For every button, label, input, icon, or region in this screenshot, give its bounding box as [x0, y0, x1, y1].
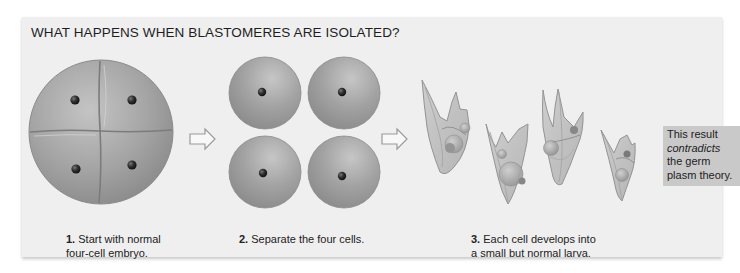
note-line1: This result: [667, 128, 718, 140]
conclusion-note: This result contradicts the germ plasm t…: [663, 126, 740, 186]
arrow-right-icon: [190, 129, 215, 149]
larva: [543, 89, 584, 185]
note-line4: plasm theory.: [667, 169, 732, 181]
step-3-caption: 3. Each cell develops into a small but n…: [471, 232, 641, 260]
step-3-number: 3.: [471, 233, 480, 245]
note-line3: the germ: [667, 155, 710, 167]
step-2-caption: 2. Separate the four cells.: [239, 232, 399, 246]
figure-panel: WHAT HAPPENS WHEN BLASTOMERES ARE ISOLAT…: [22, 17, 722, 257]
step-3-text-line2: a small but normal larva.: [471, 247, 591, 259]
step-2-text-line1: Separate the four cells.: [251, 233, 364, 245]
step-2-number: 2.: [239, 233, 248, 245]
arrow-right-icon: [382, 129, 407, 149]
larva: [486, 124, 528, 204]
step-3-text-line1: Each cell develops into: [483, 233, 596, 245]
step-1-text-line2: four-cell embryo.: [66, 247, 148, 259]
step-1-number: 1.: [66, 233, 75, 245]
larva: [601, 130, 635, 201]
note-emphasis: contradicts: [667, 142, 720, 154]
separated-cells: [229, 57, 380, 208]
larvae: [422, 80, 635, 204]
step-1-text-line1: Start with normal: [78, 233, 161, 245]
step-1-caption: 1. Start with normal four-cell embryo.: [66, 232, 226, 260]
figure-illustration: [22, 17, 722, 257]
four-cell-embryo: [29, 60, 173, 204]
larva: [422, 80, 470, 174]
